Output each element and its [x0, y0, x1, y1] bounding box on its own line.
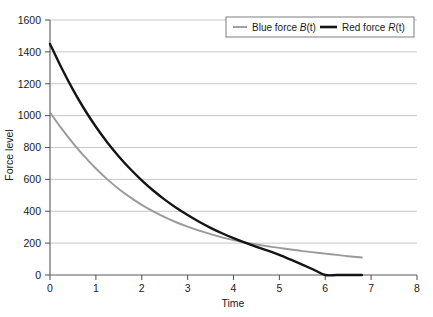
series-line-red-force — [50, 44, 362, 275]
chart-container: 02004006008001000120014001600 012345678 … — [0, 0, 433, 317]
y-tick-label: 600 — [23, 173, 41, 185]
legend: Blue force B(t) Red force R(t) — [226, 17, 414, 37]
y-tick-label: 0 — [35, 269, 41, 281]
x-tick-label: 3 — [185, 282, 191, 294]
y-tick-label: 1000 — [18, 109, 42, 121]
x-axis-ticks: 012345678 — [47, 275, 420, 294]
y-tick-label: 1400 — [18, 46, 42, 58]
x-tick-label: 2 — [139, 282, 145, 294]
x-tick-label: 4 — [231, 282, 237, 294]
x-tick-label: 1 — [93, 282, 99, 294]
y-tick-label: 1200 — [18, 78, 42, 90]
line-chart: 02004006008001000120014001600 012345678 … — [0, 0, 433, 317]
series-line-blue-force — [50, 112, 362, 257]
y-tick-label: 400 — [23, 205, 41, 217]
x-axis-title: Time — [222, 297, 245, 309]
y-axis-title: Force level — [3, 129, 15, 180]
x-tick-label: 0 — [47, 282, 53, 294]
y-tick-label: 200 — [23, 237, 41, 249]
x-tick-label: 5 — [276, 282, 282, 294]
x-tick-label: 8 — [414, 282, 420, 294]
legend-label-red-force: Red force R(t) — [342, 22, 405, 33]
legend-label-blue-force: Blue force B(t) — [252, 22, 316, 33]
y-tick-label: 1600 — [18, 14, 42, 26]
y-tick-label: 800 — [23, 141, 41, 153]
y-axis-ticks: 02004006008001000120014001600 — [18, 14, 50, 281]
x-tick-label: 7 — [368, 282, 374, 294]
x-tick-label: 6 — [322, 282, 328, 294]
gridlines — [50, 20, 417, 243]
